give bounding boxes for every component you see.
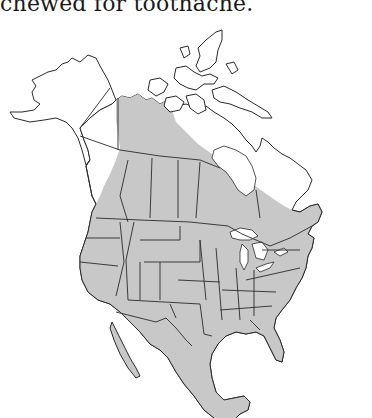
range-map (0, 0, 372, 418)
arctic-islands (148, 30, 272, 118)
